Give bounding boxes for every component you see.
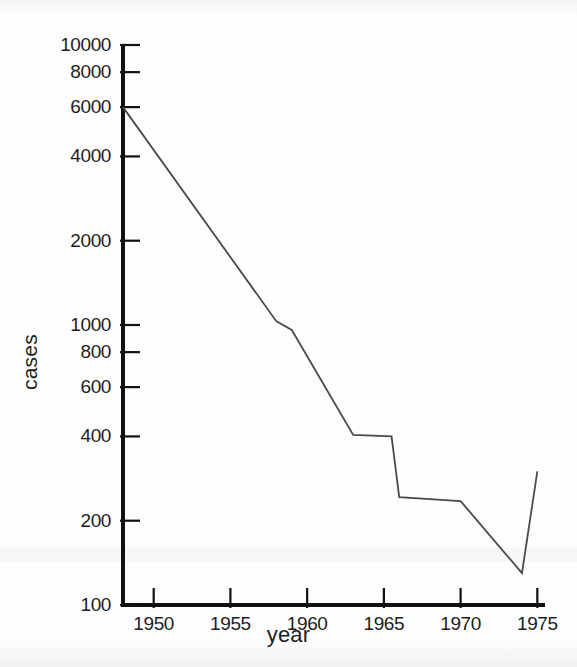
y-tick-label: 600 — [0, 376, 111, 398]
y-tick-label: 200 — [0, 510, 111, 532]
y-tick-label: 10000 — [0, 34, 111, 56]
x-axis-title: year — [0, 622, 577, 648]
y-axis-title: cases — [18, 334, 42, 390]
data-series-line — [123, 107, 537, 573]
y-tick-label: 6000 — [0, 96, 111, 118]
y-tick-label: 400 — [0, 425, 111, 447]
axis-lines — [121, 45, 545, 605]
y-tick-label: 100 — [0, 594, 111, 616]
chart-figure: 1002004006008001000200040006000800010000… — [0, 0, 577, 667]
y-tick-label: 8000 — [0, 61, 111, 83]
y-tick-label: 800 — [0, 341, 111, 363]
y-tick-label: 2000 — [0, 230, 111, 252]
y-tick-label: 1000 — [0, 314, 111, 336]
y-tick-label: 4000 — [0, 145, 111, 167]
